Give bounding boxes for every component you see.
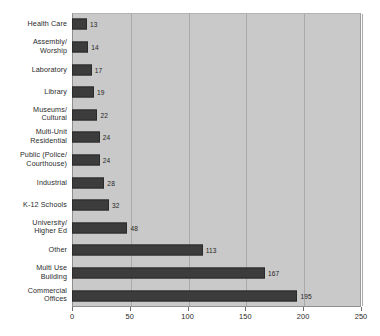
bar-group: 48 bbox=[72, 222, 138, 233]
bar bbox=[72, 109, 97, 120]
x-tick-mark bbox=[245, 307, 246, 311]
category-label: Laboratory bbox=[32, 65, 67, 74]
bar-group: 13 bbox=[72, 19, 98, 30]
bar bbox=[72, 154, 100, 165]
bar-row: Multi-Unit Residential24 bbox=[0, 126, 380, 149]
bar-value-label: 24 bbox=[103, 156, 111, 163]
category-label: Commercial Offices bbox=[28, 287, 67, 304]
category-label: University/ Higher Ed bbox=[32, 219, 67, 236]
x-axis: 050100150200250 bbox=[72, 307, 361, 329]
bar bbox=[72, 222, 127, 233]
bar bbox=[72, 132, 100, 143]
bar-value-label: 28 bbox=[107, 179, 115, 186]
bar-group: 113 bbox=[72, 245, 216, 256]
category-label: Museums/ Cultural bbox=[33, 106, 67, 123]
bar-row: Multi Use Building167 bbox=[0, 262, 380, 285]
bar-row: Assembly/ Worship14 bbox=[0, 36, 380, 59]
bar-group: 24 bbox=[72, 132, 110, 143]
bar bbox=[72, 245, 203, 256]
bar-row: Health Care13 bbox=[0, 13, 380, 36]
category-label: Library bbox=[44, 88, 67, 97]
bar-row: Commercial Offices195 bbox=[0, 284, 380, 307]
bar-row: K-12 Schools32 bbox=[0, 194, 380, 217]
bar bbox=[72, 19, 87, 30]
bar-value-label: 24 bbox=[103, 134, 111, 141]
bar-value-label: 32 bbox=[112, 202, 120, 209]
bar-row: Museums/ Cultural22 bbox=[0, 103, 380, 126]
bar-row: Library19 bbox=[0, 81, 380, 104]
bar bbox=[72, 290, 297, 301]
bar-group: 19 bbox=[72, 87, 105, 98]
x-tick-label: 150 bbox=[239, 312, 252, 321]
x-tick-label: 200 bbox=[297, 312, 310, 321]
bar-row: Other113 bbox=[0, 239, 380, 262]
bar-value-label: 195 bbox=[300, 292, 311, 299]
category-label: Assembly/ Worship bbox=[33, 38, 67, 55]
bar-value-label: 17 bbox=[95, 66, 103, 73]
x-tick-label: 50 bbox=[126, 312, 134, 321]
x-tick-mark bbox=[188, 307, 189, 311]
bar bbox=[72, 64, 92, 75]
category-label: Public (Police/ Courthouse) bbox=[20, 151, 67, 168]
x-tick-mark bbox=[361, 307, 362, 311]
bar-chart: Health Care13Assembly/ Worship14Laborato… bbox=[0, 0, 380, 336]
bar-group: 17 bbox=[72, 64, 102, 75]
x-tick-mark bbox=[72, 307, 73, 311]
bar-value-label: 113 bbox=[206, 247, 217, 254]
bar-row: Public (Police/ Courthouse)24 bbox=[0, 149, 380, 172]
bar-group: 167 bbox=[72, 268, 279, 279]
bar-value-label: 48 bbox=[130, 224, 138, 231]
bar-group: 28 bbox=[72, 177, 115, 188]
bar-value-label: 22 bbox=[100, 111, 108, 118]
category-label: Industrial bbox=[37, 178, 67, 187]
bar bbox=[72, 177, 104, 188]
bar-group: 22 bbox=[72, 109, 108, 120]
x-tick-label: 0 bbox=[70, 312, 74, 321]
x-tick-mark bbox=[130, 307, 131, 311]
bar-value-label: 13 bbox=[90, 21, 98, 28]
category-label: Health Care bbox=[28, 20, 67, 29]
bar-row: Industrial28 bbox=[0, 171, 380, 194]
bar-value-label: 14 bbox=[91, 43, 99, 50]
bar-group: 14 bbox=[72, 41, 99, 52]
category-label: Multi Use Building bbox=[36, 264, 67, 281]
bar bbox=[72, 87, 94, 98]
bar bbox=[72, 200, 109, 211]
x-tick-label: 100 bbox=[181, 312, 194, 321]
category-label: Multi-Unit Residential bbox=[30, 129, 67, 146]
bar-rows: Health Care13Assembly/ Worship14Laborato… bbox=[0, 13, 380, 307]
bar bbox=[72, 268, 265, 279]
bar-row: Laboratory17 bbox=[0, 58, 380, 81]
bar-row: University/ Higher Ed48 bbox=[0, 217, 380, 240]
bar-value-label: 167 bbox=[268, 270, 279, 277]
x-tick-mark bbox=[303, 307, 304, 311]
bar-group: 32 bbox=[72, 200, 120, 211]
category-label: Other bbox=[49, 246, 67, 255]
x-tick-label: 250 bbox=[355, 312, 368, 321]
category-label: K-12 Schools bbox=[23, 201, 67, 210]
bar bbox=[72, 41, 88, 52]
bar-value-label: 19 bbox=[97, 89, 105, 96]
bar-group: 195 bbox=[72, 290, 312, 301]
bar-group: 24 bbox=[72, 154, 110, 165]
